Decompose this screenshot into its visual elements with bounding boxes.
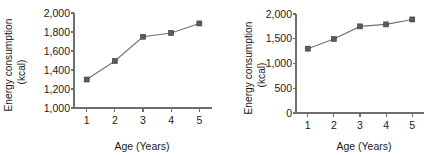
plot-area-left: 1,0001,2001,4001,6001,8002,00012345 xyxy=(44,7,212,126)
y-tick-label: 2,000 xyxy=(266,8,292,20)
x-tick-label: 2 xyxy=(331,119,337,131)
y-tick-label: 0 xyxy=(286,107,292,119)
chart-panel-right: Energy consumption (kcal) 05001,0001,500… xyxy=(217,0,434,155)
data-point-marker xyxy=(358,24,363,29)
x-tick-label: 5 xyxy=(196,114,202,126)
data-point-marker xyxy=(141,34,146,39)
x-axis-title-right: Age (Years) xyxy=(336,140,391,152)
y-tick-label: 2,000 xyxy=(44,7,70,19)
y-axis-title-left: Energy consumption (kcal) xyxy=(3,19,27,112)
y-tick-label: 1,000 xyxy=(266,57,292,69)
line-chart-left: Energy consumption (kcal) 1,0001,2001,40… xyxy=(0,0,217,155)
y-tick-label: 500 xyxy=(274,82,292,94)
chart-panel-left: Energy consumption (kcal) 1,0001,2001,40… xyxy=(0,0,217,155)
data-point-marker xyxy=(197,21,202,26)
y-axis-title-line2: (kcal) xyxy=(16,60,27,85)
data-point-marker xyxy=(112,58,117,63)
x-tick-label: 4 xyxy=(168,114,174,126)
x-tick-label: 3 xyxy=(357,119,363,131)
plot-area-right: 05001,0001,5002,00012345 xyxy=(266,8,424,131)
x-tick-label: 4 xyxy=(383,119,389,131)
y-axis-title-line1: Energy consumption xyxy=(3,19,14,112)
data-point-marker xyxy=(384,22,389,27)
data-point-marker xyxy=(331,37,336,42)
y-tick-label: 1,000 xyxy=(44,102,70,114)
data-point-marker xyxy=(169,30,174,35)
x-axis-title-left: Age (Years) xyxy=(114,140,169,152)
x-tick-label: 2 xyxy=(112,114,118,126)
x-tick-label: 1 xyxy=(84,114,90,126)
x-tick-label: 3 xyxy=(140,114,146,126)
y-tick-label: 1,500 xyxy=(266,32,292,44)
x-tick-label: 1 xyxy=(305,119,311,131)
line-chart-right: Energy consumption (kcal) 05001,0001,500… xyxy=(217,0,434,155)
y-tick-label: 1,200 xyxy=(44,83,70,95)
data-point-marker xyxy=(305,46,310,51)
data-point-marker xyxy=(410,17,415,22)
y-tick-label: 1,400 xyxy=(44,64,70,76)
y-axis-title-line1: Energy consumption xyxy=(243,22,254,115)
x-tick-label: 5 xyxy=(409,119,415,131)
y-tick-label: 1,600 xyxy=(44,45,70,57)
y-axis-title-right: Energy consumption (kcal) xyxy=(243,22,267,115)
data-series-line xyxy=(87,23,200,79)
data-point-marker xyxy=(84,77,89,82)
figure-container: Energy consumption (kcal) 1,0001,2001,40… xyxy=(0,0,434,155)
y-tick-label: 1,800 xyxy=(44,26,70,38)
